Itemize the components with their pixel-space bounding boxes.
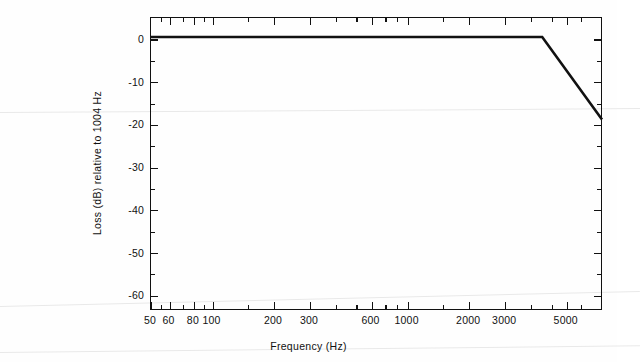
x-tick-label: 1000 [395, 314, 419, 326]
y-tick-right-minor [597, 61, 601, 62]
x-tick-top-minor [161, 18, 162, 22]
x-tick-top-minor [443, 18, 444, 22]
x-tick-top-minor [552, 18, 553, 22]
y-tick-label: -60 [128, 289, 144, 301]
x-tick-top-major [194, 18, 195, 25]
y-tick-major [151, 82, 158, 83]
y-tick-major [151, 296, 158, 297]
x-tick-minor [552, 305, 553, 309]
x-tick-minor [161, 305, 162, 309]
x-tick-top-minor [397, 18, 398, 22]
y-tick-minor [151, 104, 155, 105]
x-tick-top-major [469, 18, 470, 25]
x-tick-major [170, 302, 171, 309]
y-tick-major [151, 253, 158, 254]
y-tick-right-minor [597, 189, 601, 190]
x-tick-minor [385, 305, 386, 309]
y-tick-label: -10 [128, 76, 144, 88]
x-tick-label: 100 [202, 314, 220, 326]
x-tick-top-major [274, 18, 275, 25]
x-tick-minor [336, 305, 337, 309]
x-tick-minor [581, 305, 582, 309]
x-tick-minor [356, 305, 357, 309]
y-tick-minor [151, 232, 155, 233]
y-tick-right-major [594, 39, 601, 40]
x-tick-top-major [505, 18, 506, 25]
x-tick-top-major [310, 18, 311, 25]
x-tick-label: 600 [362, 314, 380, 326]
y-tick-major [151, 210, 158, 211]
y-tick-right-major [594, 82, 601, 83]
x-tick-minor [204, 305, 205, 309]
x-tick-major [505, 302, 506, 309]
x-tick-major [213, 302, 214, 309]
y-tick-minor [151, 146, 155, 147]
x-tick-label: 5000 [554, 314, 578, 326]
x-tick-top-major [408, 18, 409, 25]
y-axis-tick-labels: 0 -10 -20 -30 -40 -50 -60 [0, 0, 144, 362]
x-tick-minor [183, 305, 184, 309]
x-tick-label: 80 [187, 314, 199, 326]
x-tick-label: 300 [300, 314, 318, 326]
x-tick-major [274, 302, 275, 309]
x-tick-minor [397, 305, 398, 309]
x-tick-top-minor [336, 18, 337, 22]
x-tick-minor [531, 305, 532, 309]
y-tick-label: -50 [128, 247, 144, 259]
x-tick-minor [248, 305, 249, 309]
x-tick-minor [443, 305, 444, 309]
y-tick-right-major [594, 210, 601, 211]
y-tick-minor [151, 61, 155, 62]
y-tick-right-major [594, 125, 601, 126]
y-tick-major [151, 39, 158, 40]
x-tick-major [310, 302, 311, 309]
x-tick-label: 60 [163, 314, 175, 326]
x-tick-top-major [170, 18, 171, 25]
y-tick-minor [151, 189, 155, 190]
y-tick-right-minor [597, 104, 601, 105]
y-tick-right-minor [597, 274, 601, 275]
x-tick-top-minor [385, 18, 386, 22]
plot-area [150, 17, 602, 310]
x-axis-title: Frequency (Hz) [0, 340, 617, 352]
x-tick-major [567, 302, 568, 309]
y-tick-right-major [594, 296, 601, 297]
x-tick-top-minor [356, 18, 357, 22]
x-tick-top-major [567, 18, 568, 25]
y-tick-label: -40 [128, 204, 144, 216]
x-tick-label: 50 [144, 314, 156, 326]
x-tick-label: 200 [264, 314, 282, 326]
y-tick-major [151, 168, 158, 169]
y-tick-right-major [594, 253, 601, 254]
x-tick-label: 3000 [492, 314, 516, 326]
x-tick-major [469, 302, 470, 309]
y-tick-label: 0 [138, 33, 144, 45]
x-tick-top-minor [581, 18, 582, 22]
x-tick-top-minor [183, 18, 184, 22]
y-tick-minor [151, 274, 155, 275]
x-tick-top-minor [204, 18, 205, 22]
x-tick-top-major [213, 18, 214, 25]
x-tick-top-minor [531, 18, 532, 22]
x-tick-top-major [372, 18, 373, 25]
y-tick-major [151, 125, 158, 126]
y-tick-label: -30 [128, 161, 144, 173]
y-tick-right-minor [597, 146, 601, 147]
x-tick-top-minor [248, 18, 249, 22]
x-tick-major [151, 302, 152, 309]
x-tick-major [408, 302, 409, 309]
x-tick-major [194, 302, 195, 309]
x-tick-major [372, 302, 373, 309]
y-tick-right-minor [597, 232, 601, 233]
y-tick-right-major [594, 168, 601, 169]
x-tick-label: 2000 [456, 314, 480, 326]
y-tick-label: -20 [128, 118, 144, 130]
